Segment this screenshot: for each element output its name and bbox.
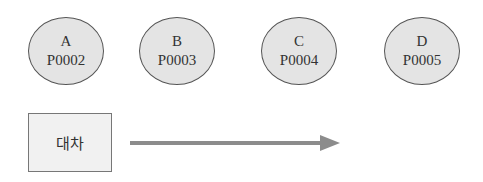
node-label: A xyxy=(61,32,72,51)
node-code: P0004 xyxy=(280,51,318,70)
node-b: B P0003 xyxy=(139,17,215,85)
node-a: A P0002 xyxy=(28,17,104,85)
node-code: P0005 xyxy=(403,51,441,70)
cart-box: 대차 xyxy=(28,113,112,172)
node-code: P0002 xyxy=(47,51,85,70)
cart-label: 대차 xyxy=(56,132,84,153)
node-c: C P0004 xyxy=(261,17,337,85)
node-d: D P0005 xyxy=(384,17,460,85)
node-code: P0003 xyxy=(158,51,196,70)
node-label: C xyxy=(294,32,304,51)
node-label: D xyxy=(417,32,428,51)
right-arrow-icon xyxy=(128,134,343,152)
node-label: B xyxy=(172,32,182,51)
